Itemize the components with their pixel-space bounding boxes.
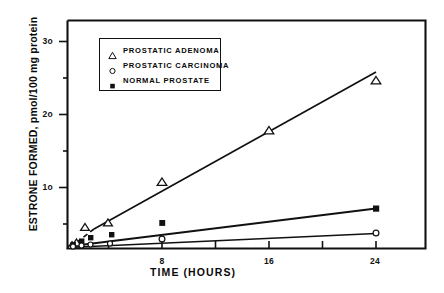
estrone-formation-chart: ESTRONE FORMED, pmol/100 mg protein TIME… [0, 0, 444, 293]
data-point [373, 206, 379, 212]
legend-item-prostatic-adenoma: PROSTATIC ADENOMA [108, 44, 220, 57]
data-point [157, 178, 167, 185]
data-point [159, 236, 165, 242]
legend-item-prostatic-carcinoma: PROSTATIC CARCINOMA [108, 59, 229, 72]
data-point [88, 235, 93, 240]
data-point [71, 244, 76, 249]
data-point [159, 220, 165, 226]
open-triangle-icon [108, 46, 117, 55]
open-circle-icon [108, 61, 117, 70]
filled-square-icon [108, 76, 117, 85]
legend-label: PROSTATIC CARCINOMA [123, 61, 229, 70]
legend-item-normal-prostate: NORMAL PROSTATE [108, 74, 210, 87]
data-point [373, 230, 379, 236]
legend-label: NORMAL PROSTATE [123, 76, 210, 85]
data-point [371, 77, 381, 84]
data-point [109, 232, 114, 237]
data-point [79, 243, 84, 248]
data-point [108, 241, 113, 246]
legend-label: PROSTATIC ADENOMA [123, 46, 220, 55]
chart-legend: PROSTATIC ADENOMA PROSTATIC CARCINOMA NO… [99, 38, 221, 91]
series-line-prostatic-adenoma [70, 72, 376, 248]
plot-canvas [0, 0, 444, 293]
data-point [81, 224, 90, 231]
data-point [88, 242, 93, 247]
series-markers-prostatic-adenoma [68, 77, 381, 249]
y-axis-ticks [59, 42, 67, 225]
